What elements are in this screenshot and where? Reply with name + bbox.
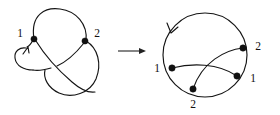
gauss-circle-diagram: 1 2 1 2 [154, 13, 261, 110]
gauss-node-label-2: 2 [255, 40, 261, 52]
transform-arrow-head [139, 48, 146, 54]
gauss-node-label-3: 1 [250, 72, 256, 84]
knot-crossing-dot-1 [31, 36, 37, 42]
gauss-node-dot-4 [190, 86, 196, 92]
knot-crossing-dot-2 [82, 38, 88, 44]
knot-arc-tail-loop [15, 48, 33, 70]
knot-crossing-label-2: 2 [94, 27, 100, 39]
knot-arc-from-c2-downleft [57, 43, 84, 66]
gauss-circle [163, 13, 247, 97]
gauss-node-dot-3 [234, 73, 240, 79]
transform-arrow [118, 48, 146, 54]
gauss-chord-2 [193, 48, 243, 89]
knot-arc-right-lobe [45, 41, 99, 95]
knot-arc-lower-cross [36, 41, 95, 92]
knot-arc-top-lobe [33, 9, 86, 41]
figure-canvas: 1 2 1 2 1 2 [0, 0, 280, 115]
knot-gauss-figure: 1 2 1 2 1 2 [0, 0, 280, 115]
knot-arc-undergap-left [33, 68, 51, 70]
gauss-node-label-1: 1 [154, 62, 160, 74]
knot-projection: 1 2 [15, 9, 100, 96]
gauss-node-dot-1 [169, 65, 175, 71]
knot-crossing-label-1: 1 [17, 27, 23, 39]
gauss-chord-1 [172, 65, 237, 76]
gauss-node-label-4: 2 [190, 98, 196, 110]
gauss-node-dot-2 [240, 45, 246, 51]
